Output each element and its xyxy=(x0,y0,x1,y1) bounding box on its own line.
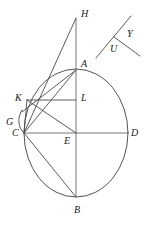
segment-C-A xyxy=(24,70,76,133)
point-label-L: L xyxy=(81,93,87,103)
arc-G-C xyxy=(19,110,24,133)
point-label-G: G xyxy=(6,117,13,127)
point-label-U: U xyxy=(110,44,117,54)
point-label-C: C xyxy=(12,128,19,138)
point-label-E: E xyxy=(64,136,70,146)
segment-K-E xyxy=(27,100,76,133)
segment-U-line xyxy=(114,37,140,56)
point-label-Y: Y xyxy=(127,29,133,39)
figure-canvas xyxy=(0,0,146,229)
point-label-K: K xyxy=(15,93,22,103)
point-label-A: A xyxy=(81,59,87,69)
geometry-figure: H Y U A K L G C E D B xyxy=(0,0,146,229)
point-label-B: B xyxy=(74,205,80,215)
point-label-D: D xyxy=(131,128,138,138)
segment-A-K xyxy=(22,70,76,112)
point-label-H: H xyxy=(81,9,88,19)
